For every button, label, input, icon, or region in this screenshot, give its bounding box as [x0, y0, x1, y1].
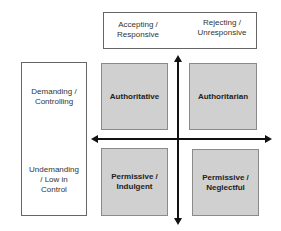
quadrant-label: Indulgent [117, 182, 153, 192]
label-line: Controlling [22, 97, 86, 107]
quadrant-authoritarian: Authoritarian [189, 63, 257, 130]
quadrant-permissive-indulgent: Permissive / Indulgent [101, 148, 168, 216]
label-line: Responsive [108, 30, 168, 40]
label-line: Accepting / [108, 20, 168, 30]
label-line: / Low in [22, 175, 86, 185]
label-line: Undemanding [22, 165, 86, 175]
quadrant-label: Authoritarian [198, 92, 248, 102]
arrow-up-icon [174, 55, 182, 62]
horizontal-axis [96, 138, 267, 140]
vertical-axis [177, 60, 179, 220]
quadrant-label: Permissive / [202, 173, 249, 183]
quadrant-label: Neglectful [206, 183, 245, 193]
accepting-responsive-label: Accepting / Responsive [108, 20, 168, 40]
arrow-left-icon [91, 135, 98, 143]
label-line: Unresponsive [190, 28, 254, 38]
quadrant-permissive-neglectful: Permissive / Neglectful [192, 149, 259, 216]
undemanding-low-control-label: Undemanding / Low in Control [22, 165, 86, 195]
quadrant-label: Authoritative [110, 92, 159, 102]
arrow-right-icon [265, 135, 272, 143]
label-line: Rejecting / [190, 18, 254, 28]
quadrant-label: Permissive / [111, 172, 158, 182]
label-line: Demanding / [22, 87, 86, 97]
label-line: Control [22, 185, 86, 195]
arrow-down-icon [174, 218, 182, 225]
quadrant-authoritative: Authoritative [101, 63, 168, 130]
rejecting-unresponsive-label: Rejecting / Unresponsive [190, 18, 254, 38]
demanding-controlling-label: Demanding / Controlling [22, 87, 86, 107]
